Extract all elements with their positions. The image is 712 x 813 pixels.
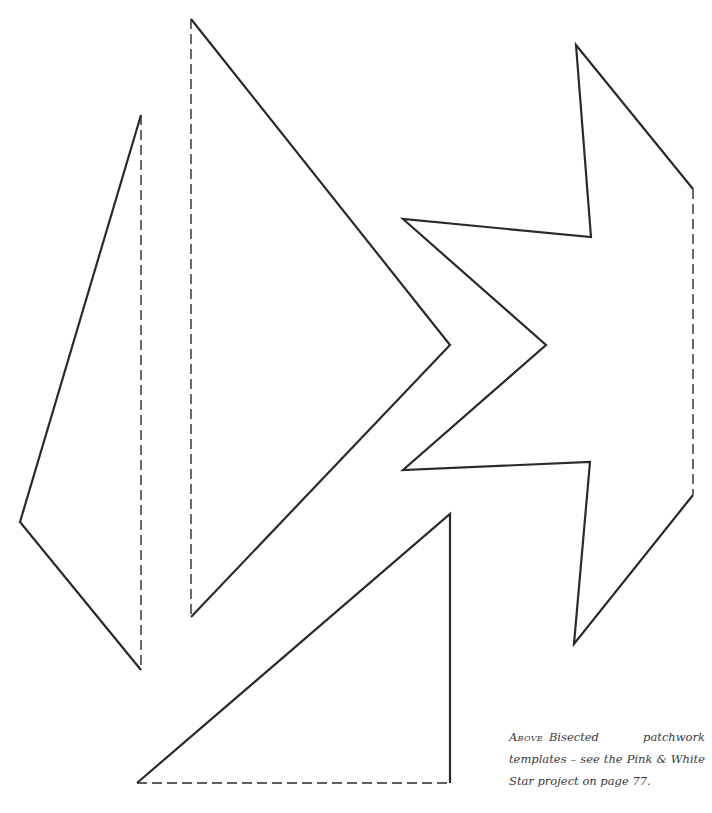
star-half-template (403, 45, 693, 644)
right-triangle-template (137, 514, 450, 783)
large-triangle-template (191, 19, 450, 617)
template-drawing (0, 0, 712, 813)
caption-lead: Above (509, 730, 543, 744)
figure-caption: AboveBisected patchwork templates – see … (509, 726, 705, 792)
narrow-triangle-template (20, 115, 141, 670)
